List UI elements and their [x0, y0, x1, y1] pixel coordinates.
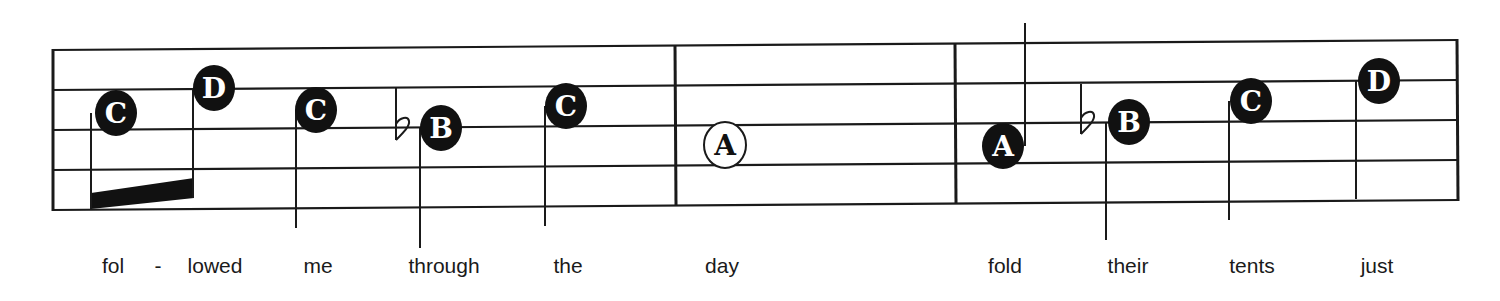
note-b-quarter: B	[420, 105, 462, 151]
lyric-word: fol	[102, 254, 124, 278]
eighth-beam	[91, 178, 194, 209]
lyric-word: me	[303, 254, 332, 278]
note-letter: C	[1240, 85, 1262, 118]
note-letter: C	[305, 94, 327, 127]
noteheads: CDCBCAABCD	[95, 58, 1400, 169]
lyric-word: the	[553, 254, 582, 278]
note-c-quarter: C	[1230, 78, 1272, 124]
note-c-quarter: C	[295, 87, 337, 133]
lyric-word: day	[705, 254, 739, 278]
note-letter: A	[713, 129, 737, 162]
lyric-word: fold	[988, 254, 1022, 278]
note-letter: D	[1367, 65, 1391, 98]
lyric-hyphen: -	[155, 254, 162, 278]
flat-icon	[1081, 84, 1094, 134]
note-letter: A	[991, 130, 1015, 163]
barline-2	[955, 43, 956, 203]
barline-1	[675, 45, 676, 206]
flat-icon	[396, 88, 409, 140]
note-c-eighth: C	[95, 90, 137, 136]
staff-line-5	[52, 200, 1458, 210]
note-letter: B	[429, 112, 453, 145]
staff-lines	[52, 40, 1458, 210]
note-d-quarter: D	[1358, 58, 1400, 104]
lyric-word: their	[1108, 254, 1149, 278]
lyric-word: lowed	[188, 254, 243, 278]
lyric-word: through	[408, 254, 479, 278]
note-c-quarter: C	[545, 83, 587, 129]
lyric-word: tents	[1229, 254, 1275, 278]
note-d-eighth: D	[193, 65, 235, 111]
lyric-word: just	[1361, 254, 1394, 278]
note-letter: B	[1117, 106, 1141, 139]
note-a-quarter: A	[982, 123, 1024, 169]
staff-line-4	[52, 160, 1458, 170]
note-letter: D	[202, 72, 226, 105]
staff-line-1	[52, 40, 1458, 50]
note-letter: C	[105, 97, 127, 130]
barline-end	[1457, 39, 1458, 201]
note-a-half: A	[704, 122, 746, 168]
note-b-quarter: B	[1108, 99, 1150, 145]
note-letter: C	[555, 90, 577, 123]
